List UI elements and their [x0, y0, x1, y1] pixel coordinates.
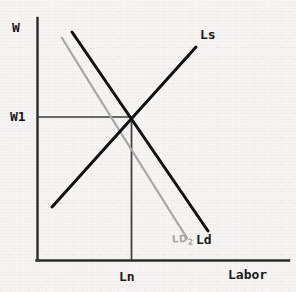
labor-demand-curve: [72, 32, 208, 231]
x-axis-label: Labor: [228, 268, 267, 281]
labor-demand-shifted-curve-label: LD2: [172, 234, 194, 248]
supply-demand-chart: [0, 0, 296, 292]
labor-demand-shifted-curve: [62, 38, 187, 238]
equilibrium-wage-label: W1: [10, 110, 26, 123]
figure-canvas: W W1 Ls Ld LD2 Ln Labor: [0, 0, 296, 292]
labor-demand-shifted-label-text: LD: [172, 233, 188, 245]
labor-demand-curve-label: Ld: [196, 233, 212, 246]
equilibrium-employment-label: Ln: [119, 270, 135, 283]
labor-demand-shifted-label-subscript: 2: [188, 238, 194, 247]
y-axis-label: W: [12, 21, 20, 34]
labor-supply-curve-label: Ls: [200, 28, 216, 41]
